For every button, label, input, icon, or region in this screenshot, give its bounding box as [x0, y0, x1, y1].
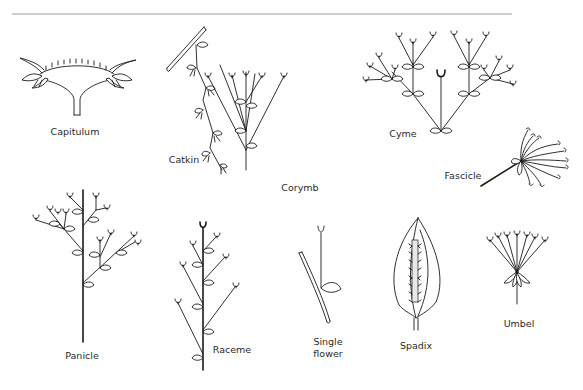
label-umbel: Umbel — [504, 318, 535, 329]
label-single-flower-line2: flower — [313, 348, 342, 359]
single-flower-drawing — [299, 226, 341, 323]
fascicle-drawing — [481, 128, 568, 187]
umbel-drawing — [487, 231, 548, 304]
label-fascicle: Fascicle — [445, 170, 482, 181]
catkin-drawing — [167, 27, 227, 174]
label-panicle: Panicle — [65, 350, 99, 361]
inflorescence-diagram: Capitulum Catkin Corymb Cyme Fascicle Pa… — [0, 0, 583, 390]
label-single-flower-line1: Single — [313, 336, 342, 347]
label-corymb: Corymb — [281, 182, 318, 193]
label-capitulum: Capitulum — [51, 126, 100, 137]
label-cyme: Cyme — [389, 128, 416, 139]
capitulum-drawing — [20, 58, 136, 115]
diagram-drawings — [0, 0, 583, 390]
label-raceme: Raceme — [213, 344, 251, 355]
cyme-drawing — [363, 31, 516, 133]
label-catkin: Catkin — [169, 154, 199, 165]
corymb-drawing — [205, 65, 287, 170]
label-spadix: Spadix — [400, 340, 432, 351]
panicle-drawing — [33, 190, 141, 342]
spadix-drawing — [394, 218, 440, 330]
